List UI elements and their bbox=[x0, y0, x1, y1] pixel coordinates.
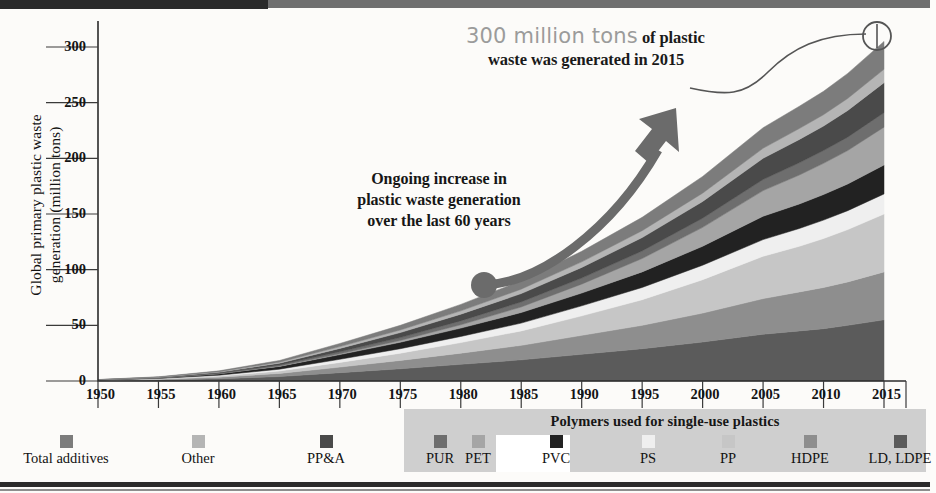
y-tick-100: 100 bbox=[50, 261, 86, 278]
x-tick-1985: 1985 bbox=[497, 386, 551, 403]
legend-label: LD, LDPE bbox=[852, 450, 936, 467]
callout-line2: waste was generated in 2015 bbox=[488, 50, 796, 69]
legend-swatch-icon bbox=[642, 435, 655, 448]
legend-group-title: Polymers used for single-use plastics bbox=[404, 413, 926, 430]
x-tick-2015: 2015 bbox=[860, 386, 914, 403]
x-tick-1995: 1995 bbox=[618, 386, 672, 403]
legend-swatch-icon bbox=[472, 435, 485, 448]
legend-swatch-icon bbox=[192, 435, 205, 448]
trend-note-line3: over the last 60 years bbox=[367, 212, 511, 229]
y-tick-200: 200 bbox=[50, 149, 86, 166]
legend-item-pvc[interactable]: PVC bbox=[508, 435, 604, 467]
x-tick-1975: 1975 bbox=[376, 386, 430, 403]
legend-swatch-icon bbox=[60, 435, 73, 448]
y-axis-title-line1: Global primary plastic waste bbox=[27, 114, 44, 295]
legend-label: PVC bbox=[508, 450, 604, 467]
callout-2015: 300 million tons of plastic waste was ge… bbox=[466, 24, 796, 69]
legend-label: HDPE bbox=[762, 450, 858, 467]
x-tick-1955: 1955 bbox=[134, 386, 188, 403]
y-tick-50: 50 bbox=[50, 316, 86, 333]
legend-swatch-icon bbox=[894, 435, 907, 448]
y-tick-150: 150 bbox=[50, 205, 86, 222]
legend-swatch-icon bbox=[722, 435, 735, 448]
legend-item-pp-a[interactable]: PP&A bbox=[278, 435, 374, 467]
y-tick-300: 300 bbox=[50, 38, 86, 55]
y-tick-250: 250 bbox=[50, 94, 86, 111]
x-tick-2005: 2005 bbox=[739, 386, 793, 403]
bottom-rule bbox=[0, 482, 930, 487]
bottom-rule-secondary bbox=[0, 489, 930, 491]
legend-item-hdpe[interactable]: HDPE bbox=[762, 435, 858, 467]
callout-headline: 300 million tons bbox=[466, 24, 638, 48]
legend-swatch-icon bbox=[320, 435, 333, 448]
trend-note-line1: Ongoing increase in bbox=[371, 170, 507, 187]
legend-label: Total additives bbox=[18, 450, 114, 467]
trend-note-line2: plastic waste generation bbox=[357, 191, 521, 208]
legend-item-total-additives[interactable]: Total additives bbox=[18, 435, 114, 467]
callout-rest: of plastic bbox=[638, 28, 705, 47]
legend-swatch-icon bbox=[550, 435, 563, 448]
x-tick-2010: 2010 bbox=[799, 386, 853, 403]
legend-swatch-icon bbox=[804, 435, 817, 448]
x-tick-1990: 1990 bbox=[557, 386, 611, 403]
x-tick-1950: 1950 bbox=[74, 386, 128, 403]
legend-item-other[interactable]: Other bbox=[150, 435, 246, 467]
x-tick-1960: 1960 bbox=[194, 386, 248, 403]
x-tick-1980: 1980 bbox=[436, 386, 490, 403]
x-tick-2000: 2000 bbox=[678, 386, 732, 403]
legend: Polymers used for single-use plastics To… bbox=[0, 409, 930, 481]
trend-note: Ongoing increase in plastic waste genera… bbox=[314, 168, 564, 231]
x-tick-1970: 1970 bbox=[315, 386, 369, 403]
legend-label: PP&A bbox=[278, 450, 374, 467]
legend-label: Other bbox=[150, 450, 246, 467]
legend-item-ld-ldpe[interactable]: LD, LDPE bbox=[852, 435, 936, 467]
x-tick-1965: 1965 bbox=[255, 386, 309, 403]
